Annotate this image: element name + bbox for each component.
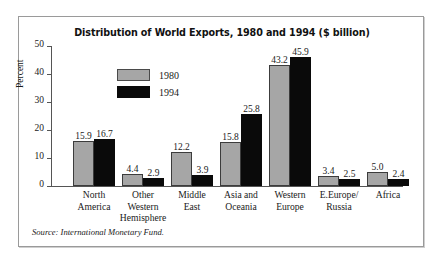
category-label: Asia andOceania [213,189,269,212]
bar-1994: 2.9 [143,178,164,186]
source-note: Source: International Monetary Fund. [32,227,164,237]
bar-value-label: 4.4 [127,164,139,174]
category-label-line: Europe [262,201,318,213]
bar-value-label: 3.9 [197,165,209,175]
category-label-line: Western [262,189,318,201]
bar-value-label: 43.2 [271,55,288,65]
bar-1980: 5.0 [367,172,388,186]
bar-value-label: 25.8 [243,104,260,114]
category-label-line: Hemisphere [115,212,171,224]
bar-1994: 2.5 [339,179,360,186]
bar-value-label: 3.4 [323,166,335,176]
category-label-line: North [66,189,122,201]
legend-swatch-1994 [117,86,150,98]
legend-label-1994: 1994 [159,87,179,98]
legend-item-1980: 1980 [117,69,179,81]
chart-title: Distribution of World Exports, 1980 and … [19,27,425,38]
x-axis-line [51,186,403,187]
bar-1994: 25.8 [241,114,262,186]
category-label: Africa [360,189,416,201]
bar-1980: 4.4 [122,174,143,186]
bar-1994: 16.7 [94,139,115,186]
category-label-line: Asia and [213,189,269,201]
category-label: OtherWesternHemisphere [115,189,171,224]
category-label-line: America [66,201,122,213]
bar-1980: 12.2 [171,152,192,186]
legend: 1980 1994 [117,69,179,103]
chart-page: Distribution of World Exports, 1980 and … [0,0,440,262]
bar-1994: 2.4 [388,179,409,186]
plot-area: Percent 0 10 20 30 40 [51,46,421,186]
legend-label-1980: 1980 [159,70,179,81]
category-label-line: Western [115,201,171,213]
bar-value-label: 15.9 [75,131,92,141]
bar-value-label: 2.9 [148,168,160,178]
legend-swatch-1980 [117,69,150,81]
category-label: E.Europe/Russia [311,189,367,212]
y-tick-label-20: 20 [35,123,45,133]
category-label: NorthAmerica [66,189,122,212]
bar-value-label: 2.5 [344,169,356,179]
bar-value-label: 16.7 [96,129,113,139]
bar-1994: 3.9 [192,175,213,186]
category-label-line: Oceania [213,201,269,213]
bar-1980: 3.4 [318,176,339,186]
category-label-line: Russia [311,201,367,213]
bar-1980: 15.8 [220,142,241,186]
y-tick-label-40: 40 [35,67,45,77]
bar-value-label: 2.4 [393,169,405,179]
bar-value-label: 12.2 [173,142,190,152]
category-label-line: East [164,201,220,213]
category-label-line: E.Europe/ [311,189,367,201]
legend-item-1994: 1994 [117,86,179,98]
bar-value-label: 5.0 [372,162,384,172]
y-axis-title: Percent [15,60,25,89]
category-label: WesternEurope [262,189,318,212]
y-axis-line [51,46,52,187]
category-label-line: Middle [164,189,220,201]
y-tick-label-10: 10 [35,151,45,161]
y-tick-label-30: 30 [35,95,45,105]
category-label-line: Other [115,189,171,201]
figure-frame: Distribution of World Exports, 1980 and … [18,16,424,247]
bar-1980: 15.9 [73,141,94,186]
category-label: MiddleEast [164,189,220,212]
y-tick-label-0: 0 [39,179,44,189]
bar-value-label: 45.9 [292,47,309,57]
bar-1994: 45.9 [290,57,311,186]
y-tick-label-50: 50 [35,39,45,49]
bar-value-label: 15.8 [222,132,239,142]
category-label-line: Africa [360,189,416,201]
bar-1980: 43.2 [269,65,290,186]
